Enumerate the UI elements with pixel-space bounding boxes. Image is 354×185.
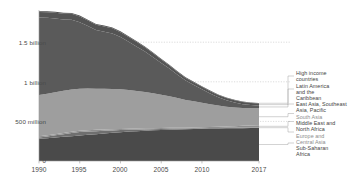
legend-item-south-asia: South Asia: [296, 114, 354, 120]
legend-leader-line: [259, 128, 294, 132]
legend-item-middle-east: Middle East and North Africa: [296, 120, 354, 132]
chart-legend: High income countries Latin America and …: [296, 70, 354, 157]
legend-leader-line: [259, 89, 294, 105]
y-tick-label-1000m: 1 billion: [0, 79, 46, 86]
legend-item-high-income: High income countries: [296, 70, 354, 82]
legend-leader-line: [259, 122, 294, 127]
x-tick-label-2017: 2017: [242, 166, 276, 173]
legend-leader-line: [259, 76, 294, 103]
legend-item-latin-america: Latin America and the Caribbean: [296, 83, 354, 101]
stacked-area-chart: 1.5 billion 1 billion 500 million 0 1990…: [0, 0, 354, 185]
x-tick-label-2000: 2000: [103, 166, 137, 173]
legend-item-east-asia: East Asia, Southeast Asia, Pacific: [296, 101, 354, 113]
legend-item-sub-saharan: Sub-Saharan Africa: [296, 145, 354, 157]
y-tick-label-1500m: 1.5 billion: [0, 39, 46, 46]
legend-leader-line: [259, 143, 294, 144]
x-tick-label-1990: 1990: [22, 166, 56, 173]
legend-item-europe: Europe and Central Asia: [296, 133, 354, 145]
y-tick-label-0: 0: [0, 157, 46, 164]
y-tick-label-500m: 500 million: [0, 118, 46, 125]
legend-leader-line: [259, 114, 294, 117]
x-tick-label-2010: 2010: [185, 166, 219, 173]
x-tick-label-1995: 1995: [62, 166, 96, 173]
x-tick-label-2005: 2005: [144, 166, 178, 173]
